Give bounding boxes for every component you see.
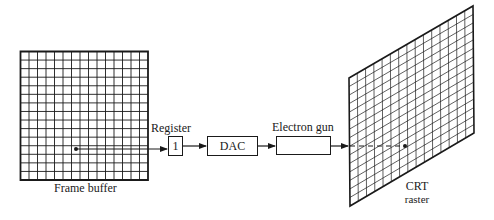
dac-box: DAC xyxy=(207,136,258,156)
electron-gun-box xyxy=(276,136,331,155)
grid-line xyxy=(465,11,466,138)
grid-border xyxy=(349,6,474,206)
register-value: 1 xyxy=(173,139,179,154)
grid-line xyxy=(415,40,416,167)
grid-line xyxy=(374,64,375,192)
crt-raster-label-line1: CRT xyxy=(400,180,434,193)
frame-buffer-label: Frame buffer xyxy=(54,182,117,195)
dac-label: DAC xyxy=(220,139,245,154)
grid-line xyxy=(390,54,391,182)
grid-line xyxy=(366,68,367,196)
crt-raster-label-line2: raster xyxy=(398,193,436,206)
frame-buffer-grid xyxy=(21,52,149,181)
grid-line xyxy=(432,30,433,157)
crt-raster-grid xyxy=(349,6,474,206)
crt-raster-pixel-dot xyxy=(403,144,407,148)
grid-line xyxy=(440,25,441,152)
grid-line xyxy=(407,44,408,172)
register-box: 1 xyxy=(168,136,183,156)
grid-border xyxy=(21,52,149,181)
register-label: Register xyxy=(151,122,191,135)
grid-line xyxy=(448,20,449,147)
grid-line xyxy=(423,35,424,162)
grid-line xyxy=(456,16,457,143)
grid-line xyxy=(399,49,400,177)
grid-line xyxy=(357,73,358,201)
electron-gun-label: Electron gun xyxy=(272,121,334,134)
grid-line xyxy=(382,59,383,187)
